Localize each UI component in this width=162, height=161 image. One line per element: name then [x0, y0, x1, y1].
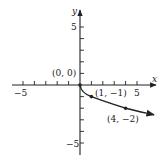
point-4-neg2	[124, 106, 128, 110]
y-tick-label-5: 5	[71, 22, 77, 32]
y-axis-label: y	[71, 6, 78, 16]
point-origin	[78, 83, 82, 87]
point-label-1-neg1: (1, −1)	[95, 88, 127, 98]
origin-label: (0, 0)	[52, 68, 76, 78]
graph: y x 5 −5 −5 5 (0, 0) (1, −1) (4, −2)	[0, 0, 162, 161]
x-tick-label-neg5: −5	[14, 88, 28, 98]
point-1-neg1	[90, 95, 94, 99]
point-label-4-neg2: (4, −2)	[107, 114, 139, 124]
x-tick-label-5: 5	[134, 88, 140, 98]
y-tick-label-neg5: −5	[66, 139, 80, 149]
x-axis-label: x	[152, 74, 157, 84]
